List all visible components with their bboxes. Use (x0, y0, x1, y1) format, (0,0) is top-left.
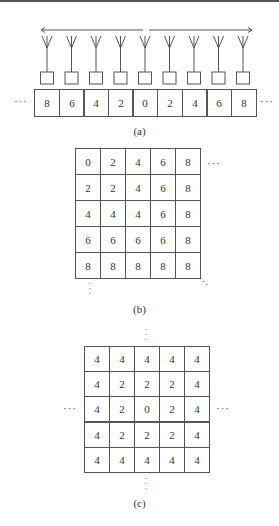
grid-cell: 4 (184, 396, 210, 422)
caption-a: (a) (0, 125, 279, 137)
grid-cell: 4 (125, 200, 151, 227)
left-ellipsis-c: ··· (63, 402, 77, 414)
left-ellipsis: ··· (14, 95, 28, 107)
grid-cell: 4 (84, 346, 110, 372)
grid-cell: 2 (109, 371, 135, 397)
grid-cell: 6 (150, 148, 176, 175)
grid-cell: 8 (150, 252, 176, 279)
grid-cell: 4 (184, 346, 210, 372)
antenna-icon (41, 36, 54, 84)
grid-cell: 2 (109, 396, 135, 422)
grid-cell: 2 (109, 422, 135, 448)
antenna-icon (212, 36, 225, 84)
grid-cell: 2 (75, 174, 101, 201)
antenna-icon (114, 36, 127, 84)
grid-cell: 6 (75, 226, 101, 253)
grid-cell: 8 (100, 252, 126, 279)
grid-cell: 2 (100, 148, 126, 175)
array-cell: 2 (108, 89, 134, 117)
array-cell: 6 (206, 89, 232, 117)
grid-cell: 8 (175, 226, 201, 253)
grid-cell: 2 (134, 422, 160, 448)
right-ellipsis: ··· (260, 95, 274, 107)
antenna-icon (139, 36, 152, 84)
grid-cell: 2 (134, 371, 160, 397)
grid-cell: 4 (159, 447, 185, 473)
caption-b: (b) (0, 303, 279, 315)
grid-cell: 4 (109, 346, 135, 372)
grid-cell: 4 (184, 422, 210, 448)
grid-cell: 4 (100, 200, 126, 227)
right-ellipsis-b: ··· (207, 157, 221, 169)
grid-cell: 4 (84, 422, 110, 448)
grid-cell: 4 (125, 148, 151, 175)
array-cell: 6 (59, 89, 85, 117)
grid-cell: 0 (134, 396, 160, 422)
diag-ellipsis-b: ⋱ (199, 277, 208, 287)
antenna-array-diagram (0, 0, 279, 90)
grid-cell: 2 (100, 174, 126, 201)
grid-cell: 6 (100, 226, 126, 253)
grid-cell: 4 (134, 447, 160, 473)
grid-cell: 2 (159, 422, 185, 448)
bottom-ellipsis-c: ··· (143, 476, 149, 491)
grid-cell: 6 (150, 200, 176, 227)
antenna-icon (65, 36, 78, 84)
array-cell: 8 (34, 89, 60, 117)
antenna-icon (163, 36, 176, 84)
grid-cell: 4 (84, 371, 110, 397)
grid-cell: 4 (84, 447, 110, 473)
grid-cell: 4 (109, 447, 135, 473)
grid-cell: 4 (125, 174, 151, 201)
grid-cell: 8 (175, 148, 201, 175)
grid-cell: 4 (184, 371, 210, 397)
grid-cell: 6 (150, 226, 176, 253)
caption-c: (c) (0, 497, 279, 509)
array-cell: 0 (132, 89, 158, 117)
grid-cell: 2 (159, 371, 185, 397)
grid-cell: 8 (175, 174, 201, 201)
grid-cell: 8 (75, 252, 101, 279)
antenna-icon (188, 36, 201, 84)
grid-cell: 8 (175, 200, 201, 227)
grid-cell: 6 (150, 174, 176, 201)
grid-cell: 4 (134, 346, 160, 372)
array-cell: 2 (157, 89, 183, 117)
grid-cell: 4 (184, 447, 210, 473)
grid-cell: 2 (159, 396, 185, 422)
antenna-icon (90, 36, 103, 84)
grid-cell: 4 (159, 346, 185, 372)
grid-cell: 4 (84, 396, 110, 422)
antenna-icon (237, 36, 250, 84)
array-cell: 4 (182, 89, 208, 117)
array-cell: 8 (231, 89, 257, 117)
grid-cell: 0 (75, 148, 101, 175)
grid-cell: 8 (175, 252, 201, 279)
bottom-ellipsis-b: ··· (87, 281, 93, 296)
top-ellipsis-c: ··· (143, 327, 149, 342)
right-ellipsis-c: ··· (216, 402, 230, 414)
grid-cell: 6 (125, 226, 151, 253)
array-cell: 4 (83, 89, 109, 117)
grid-cell: 8 (125, 252, 151, 279)
grid-cell: 4 (75, 200, 101, 227)
